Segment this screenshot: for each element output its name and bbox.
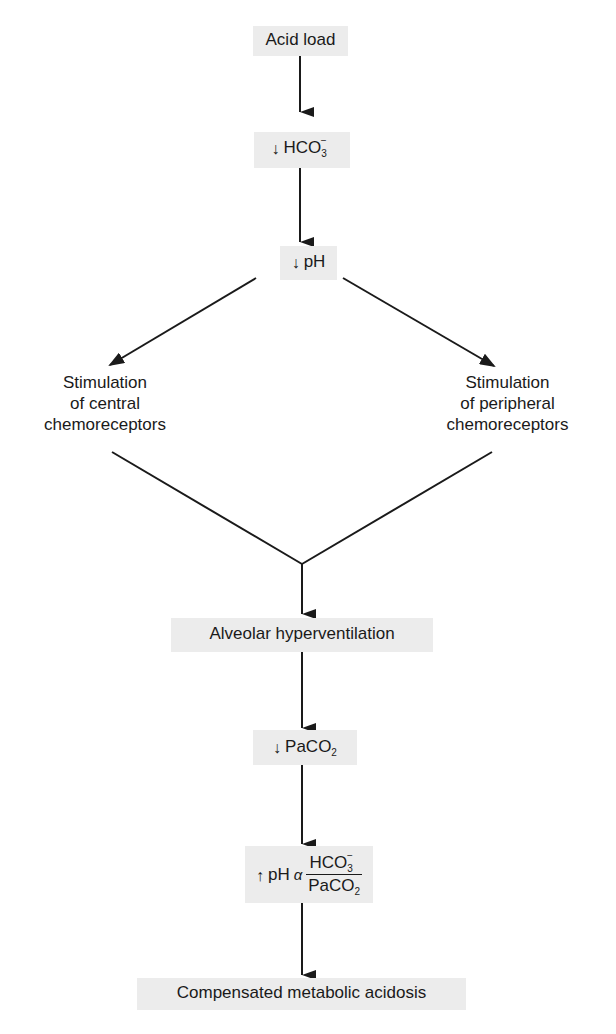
label-line: chemoreceptors <box>415 414 600 435</box>
label-line: Stimulation <box>415 372 600 393</box>
superscript: − <box>347 850 353 861</box>
node-compensated-metabolic-acidosis: Compensated metabolic acidosis <box>137 978 466 1010</box>
label-line: of peripheral <box>415 393 600 414</box>
proportional-symbol: α <box>294 864 303 886</box>
node-alveolar-hyperventilation: Alveolar hyperventilation <box>171 618 433 652</box>
node-peripheral-chemoreceptors: Stimulation of peripheral chemoreceptors <box>415 372 600 435</box>
ratio-fraction: HCO3−PaCO2 <box>306 853 362 896</box>
edge-central-to-junction <box>112 452 302 564</box>
fraction-denominator: PaCO2 <box>306 875 362 896</box>
subscript: 2 <box>331 747 337 758</box>
node-hco3: ↓HCO3− <box>254 132 350 168</box>
label-line: chemoreceptors <box>20 414 190 435</box>
fraction-numerator: HCO3− <box>306 853 362 875</box>
down-arrow-icon: ↓ <box>292 252 300 274</box>
superscript: − <box>321 135 327 146</box>
down-arrow-icon: ↓ <box>271 138 279 160</box>
node-label: pH <box>304 252 326 271</box>
subscript: 3 <box>347 863 353 874</box>
label-line: Stimulation <box>20 372 190 393</box>
node-label: Alveolar hyperventilation <box>209 624 394 643</box>
edge-ph-to-peripheral <box>343 278 494 366</box>
subscript: 2 <box>355 886 361 897</box>
subscript: 3 <box>321 148 327 159</box>
node-label: Acid load <box>266 30 336 49</box>
numerator-text: HCO <box>310 853 348 872</box>
edge-peripheral-to-junction <box>302 452 492 564</box>
node-label: pH <box>268 864 290 886</box>
node-central-chemoreceptors: Stimulation of central chemoreceptors <box>20 372 190 435</box>
node-ph-ratio: ↑pHαHCO3−PaCO2 <box>245 846 373 903</box>
node-ph-decrease: ↓pH <box>280 246 337 280</box>
node-label: Compensated metabolic acidosis <box>177 983 426 1002</box>
node-label: HCO <box>283 138 321 157</box>
label-line: of central <box>20 393 190 414</box>
node-paco2: ↓PaCO2 <box>253 730 357 765</box>
node-acid-load: Acid load <box>253 26 348 56</box>
down-arrow-icon: ↓ <box>273 737 281 759</box>
edge-ph-to-central <box>110 278 256 365</box>
denominator-text: PaCO <box>308 876 354 895</box>
node-label: PaCO <box>285 737 331 756</box>
up-arrow-icon: ↑ <box>256 865 264 887</box>
